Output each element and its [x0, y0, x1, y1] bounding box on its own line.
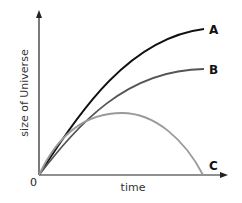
x-axis-label: time: [121, 181, 146, 194]
label-b: B: [209, 63, 218, 77]
y-axis-arrow-icon: [36, 10, 42, 18]
curve-b: [39, 69, 204, 175]
y-axis-label: size of Universe: [18, 49, 31, 137]
universe-expansion-chart: A B C 0 time size of Universe: [0, 0, 242, 203]
origin-label: 0: [30, 176, 37, 189]
label-c: C: [209, 159, 218, 173]
curve-a: [39, 29, 204, 175]
label-a: A: [209, 23, 219, 37]
x-axis-arrow-icon: [220, 172, 228, 178]
